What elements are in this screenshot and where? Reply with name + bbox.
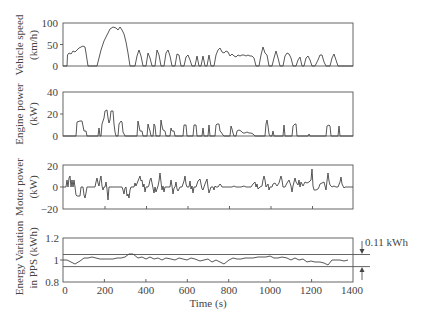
panel-engine-power: Engine power (kW) 40 20 0: [13, 83, 353, 145]
panel-motor-power: Motor power (kW) 20 0 −20: [13, 158, 353, 216]
panel-energy-variation: Energy Variation in PPS (kWh) 1.2 1 0.8 …: [13, 220, 408, 310]
y-tick-label: 20: [47, 108, 59, 120]
y-tick-label: 0: [53, 181, 59, 193]
y-axis-label-energy-line2: in PPS (kWh): [27, 227, 40, 288]
motor-power-trace: [63, 169, 353, 200]
y-axis-label-motor-line2: (kW): [27, 175, 40, 199]
y-tick-label: −20: [41, 203, 59, 215]
x-tick-label: 0: [62, 284, 68, 296]
y-axis-label-motor-line1: Motor power: [13, 158, 25, 216]
y-tick-label: 1: [54, 254, 60, 266]
y-tick-label: 1.2: [45, 232, 59, 244]
y-axis-label-engine-line2: (kW): [27, 102, 40, 126]
x-tick-label: 1000: [259, 284, 282, 296]
y-tick-label: 0.8: [45, 276, 59, 288]
x-tick-label: 800: [221, 284, 238, 296]
x-tick-label: 1200: [300, 284, 323, 296]
y-tick-label: 50: [47, 39, 59, 51]
x-tick-label: 400: [138, 284, 155, 296]
plot-frame: [63, 92, 353, 136]
y-axis-label-speed-line1: Vehicle speed: [13, 14, 25, 75]
y-tick-label: 20: [47, 160, 59, 172]
x-tick-label: 600: [179, 284, 196, 296]
x-axis-label: Time (s): [189, 297, 227, 310]
band-annotation-label: 0.11 kWh: [365, 236, 408, 248]
panel-vehicle-speed: Vehicle speed (km/h) 100 50 0: [13, 14, 353, 75]
y-tick-label: 40: [47, 86, 59, 98]
engine-power-trace: [63, 110, 353, 136]
y-axis-label-engine-line1: Engine power: [13, 83, 25, 145]
plot-frame: [63, 238, 353, 282]
y-tick-label: 100: [42, 17, 59, 29]
arrow-up-icon: [360, 267, 365, 272]
x-tick-label: 1400: [341, 284, 364, 296]
y-axis-label-energy-line1: Energy Variation: [13, 220, 25, 295]
y-tick-label: 0: [53, 60, 59, 72]
x-tick-label: 200: [97, 284, 114, 296]
y-axis-label-speed-line2: (km/h): [27, 30, 40, 60]
y-tick-label: 0: [53, 130, 59, 142]
energy-variation-trace: [63, 254, 348, 265]
arrow-down-icon: [360, 249, 365, 254]
multi-panel-chart: Vehicle speed (km/h) 100 50 0 Engine pow…: [0, 0, 423, 325]
band-annotation: 0.11 kWh: [360, 236, 409, 280]
speed-trace: [63, 27, 353, 66]
